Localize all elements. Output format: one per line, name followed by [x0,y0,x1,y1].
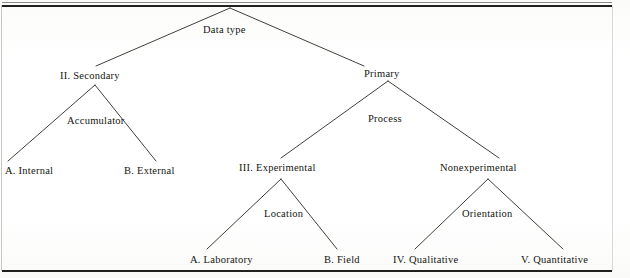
node-primary: Primary [364,68,400,79]
node-nonexperimental: Nonexperimental [440,162,517,173]
figure-root: Data type II. Secondary Primary A. Inter… [0,0,630,278]
node-laboratory: A. Laboratory [190,254,253,265]
node-external: B. External [124,165,175,176]
tree-edges [0,0,630,278]
branch-label-accumulator: Accumulator [67,115,125,126]
node-field: B. Field [324,254,360,265]
branch-label-process: Process [368,113,402,124]
node-experimental: III. Experimental [239,162,316,173]
node-qualitative: IV. Qualitative [393,254,458,265]
node-internal: A. Internal [5,165,53,176]
edge-root-to-primary [230,8,364,66]
node-quantitative: V. Quantitative [521,254,588,265]
node-root-data-type: Data type [203,24,246,35]
edge-root-to-secondary [96,8,230,66]
branch-label-location: Location [264,208,303,219]
node-secondary: II. Secondary [60,70,120,81]
branch-label-orientation: Orientation [462,208,513,219]
edge-primary-to-nonexperimental [388,81,499,158]
